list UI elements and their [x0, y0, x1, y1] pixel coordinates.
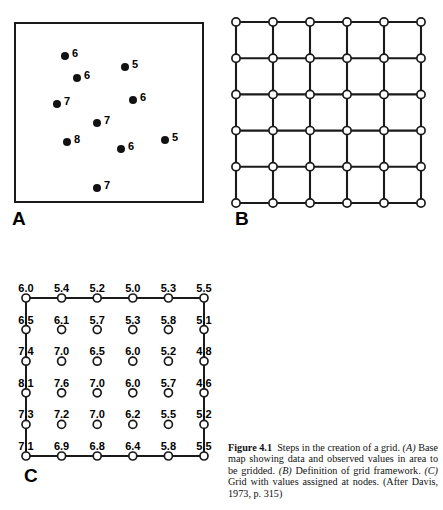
grid-node: [269, 18, 277, 26]
grid-node: [306, 127, 314, 135]
grid-node-value-label: 6.1: [54, 315, 69, 326]
grid-node: [232, 163, 240, 171]
grid-node: [343, 199, 351, 207]
data-point-icon: [53, 100, 61, 108]
grid-node: [200, 326, 208, 334]
data-point-icon: [161, 136, 169, 144]
grid-node: [93, 326, 101, 334]
data-point-icon: [117, 145, 125, 153]
grid-node: [93, 294, 101, 302]
grid-node-value-label: 6.5: [90, 346, 105, 357]
data-point-icon: [93, 119, 101, 127]
caption-c-text: Grid with values assigned at nodes.: [228, 476, 379, 487]
grid-node: [306, 163, 314, 171]
grid-node: [306, 199, 314, 207]
figure-caption: Figure 4.1 Steps in the creation of a gr…: [228, 442, 438, 499]
grid-node-value-label: 8.1: [18, 378, 33, 389]
caption-lead: Steps in the creation of a grid.: [277, 442, 400, 453]
grid-node: [232, 127, 240, 135]
grid-node: [58, 452, 66, 460]
observation-value-label: 7: [104, 180, 110, 191]
grid-node: [380, 127, 388, 135]
grid-node-value-label: 5.7: [90, 315, 105, 326]
grid-node: [269, 54, 277, 62]
grid-node-value-label: 4.8: [196, 346, 211, 357]
grid-node-value-label: 6.4: [125, 441, 140, 452]
grid-node: [232, 199, 240, 207]
grid-node-value-label: 6.0: [125, 378, 140, 389]
grid-node-value-label: 5.2: [161, 346, 176, 357]
grid-node-value-label: 6.8: [90, 441, 105, 452]
grid-node-value-label: 7.0: [54, 346, 69, 357]
data-point-icon: [73, 74, 81, 82]
grid-node: [22, 389, 30, 397]
grid-node-value-label: 5.0: [125, 283, 140, 294]
grid-node: [129, 389, 137, 397]
caption-b-tag: (B): [279, 465, 292, 476]
grid-node: [22, 326, 30, 334]
grid-node: [164, 357, 172, 365]
grid-node: [417, 90, 425, 98]
grid-node-value-label: 5.1: [196, 315, 211, 326]
grid-node-value-label: 5.3: [125, 315, 140, 326]
panel-c-canvas: [2, 278, 228, 476]
grid-node: [93, 389, 101, 397]
panel-b-grid-framework: [236, 22, 421, 203]
grid-node: [58, 389, 66, 397]
grid-node: [58, 357, 66, 365]
grid-node: [417, 54, 425, 62]
grid-node: [269, 199, 277, 207]
grid-node: [343, 54, 351, 62]
data-point-icon: [129, 96, 137, 104]
grid-node-value-label: 4.6: [196, 378, 211, 389]
grid-node: [306, 90, 314, 98]
grid-node-value-label: 5.2: [90, 283, 105, 294]
grid-node-value-label: 7.2: [54, 409, 69, 420]
grid-node: [200, 452, 208, 460]
grid-node: [164, 389, 172, 397]
caption-b-text: Definition of grid framework.: [296, 465, 421, 476]
observation-value-label: 8: [74, 134, 80, 145]
panel-letter-b: B: [235, 209, 249, 228]
grid-node: [200, 389, 208, 397]
panel-a-base-map: 6675678657: [14, 22, 204, 203]
grid-node: [129, 357, 137, 365]
observation-value-label: 5: [172, 132, 178, 143]
grid-node: [417, 18, 425, 26]
grid-node-value-label: 5.2: [196, 409, 211, 420]
grid-node-value-label: 5.5: [196, 441, 211, 452]
grid-node: [343, 18, 351, 26]
panel-b-canvas: [228, 14, 429, 211]
grid-node: [269, 127, 277, 135]
caption-c-tag: (C): [424, 465, 438, 476]
grid-node: [93, 357, 101, 365]
observation-value-label: 7: [104, 115, 110, 126]
grid-node: [93, 452, 101, 460]
grid-node: [343, 90, 351, 98]
grid-node: [129, 326, 137, 334]
grid-node-value-label: 5.5: [196, 283, 211, 294]
grid-node-value-label: 7.0: [90, 378, 105, 389]
grid-node: [232, 54, 240, 62]
grid-node: [380, 199, 388, 207]
running-header: [330, 0, 440, 10]
grid-node: [380, 18, 388, 26]
panel-letter-c: C: [24, 466, 38, 485]
data-point-icon: [121, 63, 129, 71]
grid-node-value-label: 5.3: [161, 283, 176, 294]
grid-node: [380, 54, 388, 62]
grid-node: [200, 294, 208, 302]
grid-node: [58, 294, 66, 302]
grid-node: [129, 452, 137, 460]
grid-node: [22, 452, 30, 460]
grid-node: [200, 420, 208, 428]
grid-node-value-label: 6.2: [125, 409, 140, 420]
grid-node: [164, 452, 172, 460]
grid-node: [417, 127, 425, 135]
grid-node-value-label: 5.5: [161, 409, 176, 420]
grid-node-value-label: 6.9: [54, 441, 69, 452]
grid-node-value-label: 7.1: [18, 441, 33, 452]
data-point-icon: [61, 52, 69, 60]
observation-value-label: 7: [64, 96, 70, 107]
grid-node: [164, 294, 172, 302]
